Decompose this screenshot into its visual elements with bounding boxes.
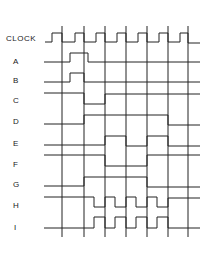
signal-label-clock: CLOCK (6, 34, 36, 43)
waveform-g (44, 177, 200, 187)
waveform-clock (45, 33, 200, 43)
signal-labels: CLOCKABCDEFGHI (6, 34, 36, 232)
waveform-e (44, 136, 200, 146)
signal-label-g: G (13, 180, 20, 189)
waveform-i (44, 217, 200, 228)
signal-label-a: A (13, 57, 19, 66)
waveform-h (44, 197, 200, 207)
waveform-d (44, 115, 200, 125)
waveform-b (44, 73, 200, 82)
waveform-a (44, 53, 200, 62)
signal-label-d: D (13, 117, 19, 126)
waveform-c (44, 93, 200, 104)
signal-label-f: F (13, 160, 18, 169)
clock-edge-gridlines (62, 26, 188, 237)
waveform-f (44, 155, 200, 166)
signal-label-h: H (13, 201, 19, 210)
signal-label-i: I (14, 223, 17, 232)
signal-label-b: B (13, 76, 19, 85)
signal-waveforms (44, 33, 200, 228)
signal-label-c: C (13, 96, 19, 105)
timing-diagram: CLOCKABCDEFGHI (0, 0, 211, 257)
signal-label-e: E (13, 139, 19, 148)
